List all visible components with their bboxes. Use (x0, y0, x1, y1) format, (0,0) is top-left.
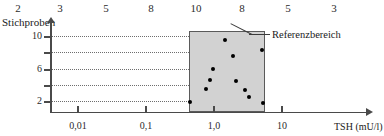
x-tick-label-0.1: 0,1 (129, 120, 163, 132)
x-tick-1.0 (213, 106, 215, 112)
data-point (208, 78, 212, 82)
x-axis-line (50, 112, 368, 114)
y-tick-label-2-wrap: 2 (16, 96, 42, 106)
top-count-4: 10 (186, 1, 206, 15)
top-count-0: 2 (8, 1, 28, 15)
top-count-2: 5 (96, 1, 116, 15)
data-point (211, 67, 215, 71)
gridline-2 (51, 101, 189, 102)
data-point (188, 100, 192, 104)
y-tick-4 (44, 85, 51, 87)
data-point (243, 88, 247, 92)
annotation-leader-horizontal (249, 34, 270, 35)
y-tick-label-6-wrap: 6 (16, 64, 42, 74)
reference-range-band (189, 31, 265, 112)
top-count-5: 8 (232, 1, 252, 15)
y-tick-label-10: 10 (20, 31, 42, 41)
gridline-4 (51, 85, 189, 86)
x-tick-0.1 (145, 106, 147, 112)
data-point (204, 87, 208, 91)
y-tick-6 (44, 69, 51, 71)
y-tick-label-10-wrap: 10 (16, 31, 42, 41)
data-point (260, 48, 264, 52)
x-tick-label-0.01: 0,01 (61, 120, 95, 132)
data-point (234, 79, 238, 83)
top-count-axis: 2 3 5 8 10 8 5 3 (0, 0, 384, 18)
data-point (247, 95, 251, 99)
gridline-6 (51, 69, 189, 70)
x-axis-title: TSH (mU/l) (334, 121, 383, 133)
gridline-10 (51, 36, 189, 37)
y-tick-label-2: 2 (20, 96, 42, 106)
y-tick-2 (44, 101, 51, 103)
y-tick-8 (44, 52, 51, 54)
data-point (231, 54, 235, 58)
y-tick-10 (44, 36, 51, 38)
x-axis-arrow-icon (366, 108, 373, 116)
data-point (223, 38, 227, 42)
x-tick-0.01 (77, 106, 79, 112)
y-axis-arrow-icon (47, 17, 55, 23)
top-count-7: 3 (324, 1, 344, 15)
x-tick-label-10: 10 (265, 120, 299, 132)
gridline-8 (51, 52, 189, 53)
x-tick-label-1.0: 1,0 (197, 120, 231, 132)
tsh-distribution-chart: 2 3 5 8 10 8 5 3 Stichproben 10 6 2 0,01… (0, 0, 384, 136)
top-count-1: 3 (50, 1, 70, 15)
data-point (261, 101, 265, 105)
top-count-6: 5 (278, 1, 298, 15)
reference-range-label: Referenzbereich (272, 28, 341, 41)
top-count-3: 8 (141, 1, 161, 15)
x-tick-10 (281, 106, 283, 112)
y-tick-label-6: 6 (20, 64, 42, 74)
